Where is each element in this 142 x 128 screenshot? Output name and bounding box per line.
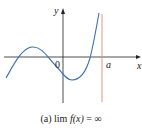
x-axis-label: x	[137, 61, 141, 71]
graph	[0, 0, 142, 128]
y-axis-label: y	[54, 6, 58, 16]
caption-equals: =	[86, 113, 92, 124]
caption-value: ∞	[94, 113, 101, 124]
caption-prefix: (a)	[40, 113, 51, 124]
asymptote-label: a	[106, 60, 111, 70]
caption-function: f(x)	[70, 113, 84, 124]
figure-caption: (a) lim f(x) = ∞	[0, 113, 142, 124]
x-axis-arrow-icon	[136, 55, 141, 59]
function-curve	[6, 13, 99, 80]
y-axis-arrow-icon	[61, 8, 65, 14]
caption-lim: lim	[54, 113, 67, 124]
origin-label: 0	[55, 60, 60, 70]
